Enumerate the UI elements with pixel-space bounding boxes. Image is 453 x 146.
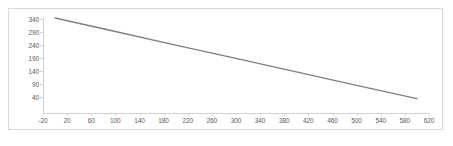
line-series-layer — [9, 9, 444, 131]
chart-frame: 4090140190240290340 -2020601001401802202… — [8, 8, 443, 130]
line-series-1 — [55, 18, 417, 99]
plot-area: 4090140190240290340 -2020601001401802202… — [9, 9, 442, 129]
